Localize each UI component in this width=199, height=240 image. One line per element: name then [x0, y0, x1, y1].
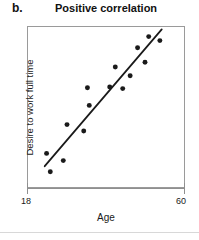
data-point — [143, 60, 148, 65]
plot-canvas — [28, 27, 184, 187]
data-point — [146, 34, 151, 39]
y-axis-title: Desire to work full time — [24, 33, 35, 183]
x-axis-line — [27, 188, 185, 189]
data-point — [135, 45, 140, 50]
plot-area — [27, 26, 185, 188]
x-axis-tick-label-max: 60 — [176, 196, 186, 207]
data-point — [120, 86, 125, 91]
data-point — [61, 158, 66, 163]
data-point — [128, 73, 133, 78]
x-axis-title: Age — [27, 212, 185, 224]
data-point — [85, 85, 90, 90]
panel-letter: b. — [12, 1, 23, 15]
x-axis-tick-min — [27, 183, 28, 194]
x-axis-tick-label-min: 18 — [21, 196, 31, 207]
x-axis-tick-max — [184, 183, 185, 194]
trendline — [45, 29, 162, 166]
data-point — [81, 129, 86, 134]
data-point — [65, 122, 70, 127]
data-point — [44, 151, 49, 156]
chart-title: Positive correlation — [55, 2, 187, 15]
scatter-plot-figure: b. Positive correlation 18 60 Age Desire… — [0, 0, 199, 240]
data-point — [48, 169, 53, 174]
data-point — [113, 65, 118, 70]
data-point — [87, 103, 92, 108]
data-points — [44, 34, 162, 174]
data-point — [157, 38, 162, 43]
page-divider — [0, 232, 199, 233]
data-point — [107, 85, 112, 90]
